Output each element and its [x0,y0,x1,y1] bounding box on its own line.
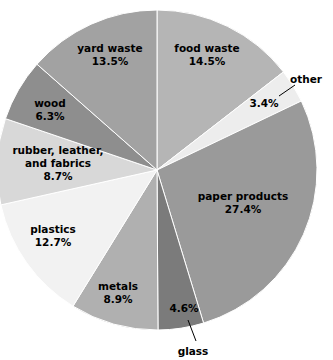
callout-label-other: other [290,73,323,85]
slice-label-other: 3.4% [249,97,279,109]
pie-chart: food waste14.5%3.4%otherpaper products27… [0,0,333,360]
slice-label-glass: 4.6% [169,302,199,314]
callout-label-glass: glass [178,345,209,357]
pie-chart-svg: food waste14.5%3.4%otherpaper products27… [0,0,333,360]
slice-label-metals: metals8.9% [98,280,138,305]
slice-label-wood: wood6.3% [34,97,66,122]
slice-label-plastics: plastics12.7% [30,223,76,248]
